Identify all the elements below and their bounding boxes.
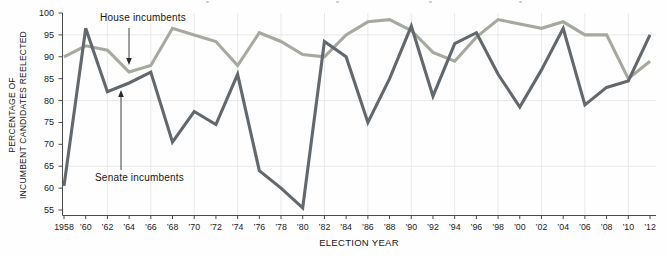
- y-axis-title: PERCENTAGE OF INCUMBENT CANDIDATES REELE…: [7, 9, 29, 221]
- x-tick-label: ’60: [80, 222, 92, 232]
- x-tick-label: ’62: [102, 222, 114, 232]
- x-tick-label: ’06: [579, 222, 591, 232]
- x-tick-label: ’82: [319, 222, 331, 232]
- arrow-head-up-icon: [118, 90, 124, 97]
- x-tick-label: ’96: [470, 222, 482, 232]
- x-tick-label: ’08: [601, 222, 613, 232]
- x-tick-label: ’00: [514, 222, 526, 232]
- x-axis-title: ELECTION YEAR: [62, 237, 656, 248]
- x-tick-label: ’80: [297, 222, 309, 232]
- x-tick-label: 1958: [54, 222, 74, 232]
- y-tick-label: 55: [44, 205, 54, 215]
- incumbent-reelection-chart: 5560657075808590951001958’60’62’64’66’68…: [0, 0, 666, 257]
- x-tick-label: ’04: [557, 222, 569, 232]
- x-tick-label: ’90: [405, 222, 417, 232]
- arrow-head-down-icon: [126, 58, 132, 65]
- y-tick-label: 85: [44, 74, 54, 84]
- y-tick-label: 75: [44, 117, 54, 127]
- x-tick-label: ’12: [644, 222, 656, 232]
- x-tick-label: ’94: [449, 222, 461, 232]
- x-tick-label: ’78: [275, 222, 287, 232]
- x-tick-label: ’98: [492, 222, 504, 232]
- x-tick-label: ’86: [362, 222, 374, 232]
- x-tick-label: ’84: [340, 222, 352, 232]
- y-tick-label: 90: [44, 52, 54, 62]
- y-tick-label: 65: [44, 161, 54, 171]
- x-tick-label: ’72: [210, 222, 222, 232]
- y-tick-label: 60: [44, 183, 54, 193]
- x-tick-label: ’88: [384, 222, 396, 232]
- x-tick-label: ’66: [145, 222, 157, 232]
- x-tick-label: ’76: [253, 222, 265, 232]
- house-series-label: House incumbents: [100, 12, 186, 23]
- y-tick-label: 100: [39, 8, 54, 18]
- x-tick-label: ’92: [427, 222, 439, 232]
- y-axis-title-line2: INCUMBENT CANDIDATES REELECTED: [18, 9, 29, 221]
- x-tick-label: ’10: [622, 222, 634, 232]
- y-tick-label: 95: [44, 30, 54, 40]
- x-tick-label: ’70: [188, 222, 200, 232]
- x-tick-label: ’68: [167, 222, 179, 232]
- x-tick-label: ’02: [536, 222, 548, 232]
- line-chart-canvas: 5560657075808590951001958’60’62’64’66’68…: [0, 0, 666, 257]
- x-tick-label: ’64: [123, 222, 135, 232]
- x-tick-label: ’74: [232, 222, 244, 232]
- house-annotation-arrow: [123, 26, 135, 68]
- y-tick-label: 80: [44, 96, 54, 106]
- senate-series-label: Senate incumbents: [95, 172, 184, 183]
- y-tick-label: 70: [44, 139, 54, 149]
- senate-annotation-arrow: [115, 88, 127, 172]
- y-axis-title-line1: PERCENTAGE OF: [7, 9, 18, 221]
